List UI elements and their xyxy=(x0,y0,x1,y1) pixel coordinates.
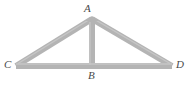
vertex-label-b: B xyxy=(88,70,95,81)
vertex-label-c: C xyxy=(4,59,11,70)
member-left-rafter xyxy=(16,19,92,66)
truss-members xyxy=(16,16,172,66)
member-right-rafter xyxy=(92,19,172,66)
member-left-rafter-highlight xyxy=(18,19,91,64)
truss-figure: A B C D xyxy=(0,0,190,86)
vertex-label-a: A xyxy=(84,3,91,14)
member-right-rafter-highlight xyxy=(93,19,170,64)
truss-diagram xyxy=(0,0,190,86)
vertex-label-d: D xyxy=(176,59,184,70)
